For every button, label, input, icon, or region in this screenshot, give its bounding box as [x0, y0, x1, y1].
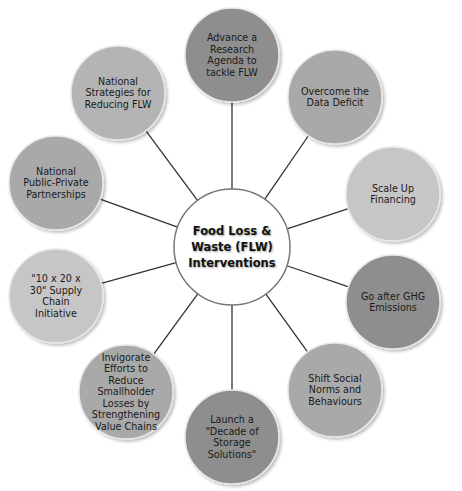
node-circle-decade-of-storage: [185, 390, 279, 484]
flw-interventions-diagram: [0, 0, 462, 491]
node-circle-public-private-partnerships: [9, 136, 103, 230]
node-circle-smallholder-losses: [79, 345, 173, 439]
node-circle-research-agenda: [185, 8, 279, 102]
connector-supply-chain-initiative: [101, 263, 176, 284]
node-circle-supply-chain-initiative: [9, 249, 103, 343]
connector-data-deficit: [265, 136, 309, 199]
connector-ghg-emissions: [287, 266, 349, 287]
connector-scale-up-financing: [287, 209, 348, 229]
connector-social-norms: [266, 294, 308, 352]
node-circle-data-deficit: [288, 50, 382, 144]
connector-national-strategies: [146, 131, 198, 201]
connector-public-private-partnerships: [100, 199, 177, 227]
center-hub-circle: [174, 189, 290, 305]
node-circle-scale-up-financing: [346, 147, 440, 241]
node-circle-ghg-emissions: [346, 255, 440, 349]
node-circle-national-strategies: [71, 46, 165, 140]
connector-smallholder-losses: [154, 294, 198, 354]
node-circle-social-norms: [288, 343, 382, 437]
